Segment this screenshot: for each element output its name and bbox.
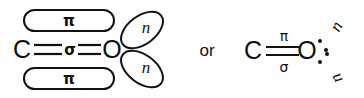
- right-structure: C π σ O n n: [244, 18, 347, 87]
- left-oxygen-atom-label: O: [102, 35, 121, 63]
- lone-pair-upper: n: [318, 18, 347, 52]
- lone-pair-upper-n-label: n: [326, 18, 347, 34]
- pi-orbital-top-label: π: [63, 12, 75, 30]
- sigma-bond-center-label: σ: [64, 41, 76, 59]
- lone-pair-lower-dot-2: [325, 52, 329, 56]
- molecular-orbital-diagram: π π C σ O n: [0, 0, 364, 98]
- right-bond-pi-label: π: [280, 28, 289, 44]
- right-double-bond: [266, 47, 299, 55]
- right-carbon-atom-label: C: [244, 36, 262, 64]
- pi-orbital-top: π: [24, 10, 114, 31]
- diagram-canvas: π π C σ O n: [0, 0, 364, 98]
- lone-pair-lower-n-label: n: [326, 70, 347, 86]
- lone-pair-upper-dot-2: [324, 48, 328, 52]
- n-lobe-lower-label: n: [142, 58, 151, 77]
- lone-pair-lower-dot-1: [318, 60, 322, 64]
- left-sigma-bond: σ: [34, 41, 101, 59]
- right-oxygen-atom-label: O: [297, 36, 316, 64]
- n-lobe-upper: n: [114, 4, 169, 55]
- pi-orbital-bottom: π: [24, 68, 114, 89]
- left-structure: π π C σ O n: [13, 4, 170, 94]
- or-connector-label: or: [199, 41, 214, 60]
- n-lobe-upper-label: n: [142, 18, 151, 37]
- lone-pair-lower: n: [318, 52, 347, 87]
- n-lobe-lower: n: [114, 43, 169, 94]
- right-bond-sigma-label: σ: [280, 59, 289, 75]
- left-carbon-atom-label: C: [13, 35, 31, 63]
- pi-orbital-bottom-label: π: [63, 70, 75, 88]
- lone-pair-upper-dot-1: [318, 39, 322, 43]
